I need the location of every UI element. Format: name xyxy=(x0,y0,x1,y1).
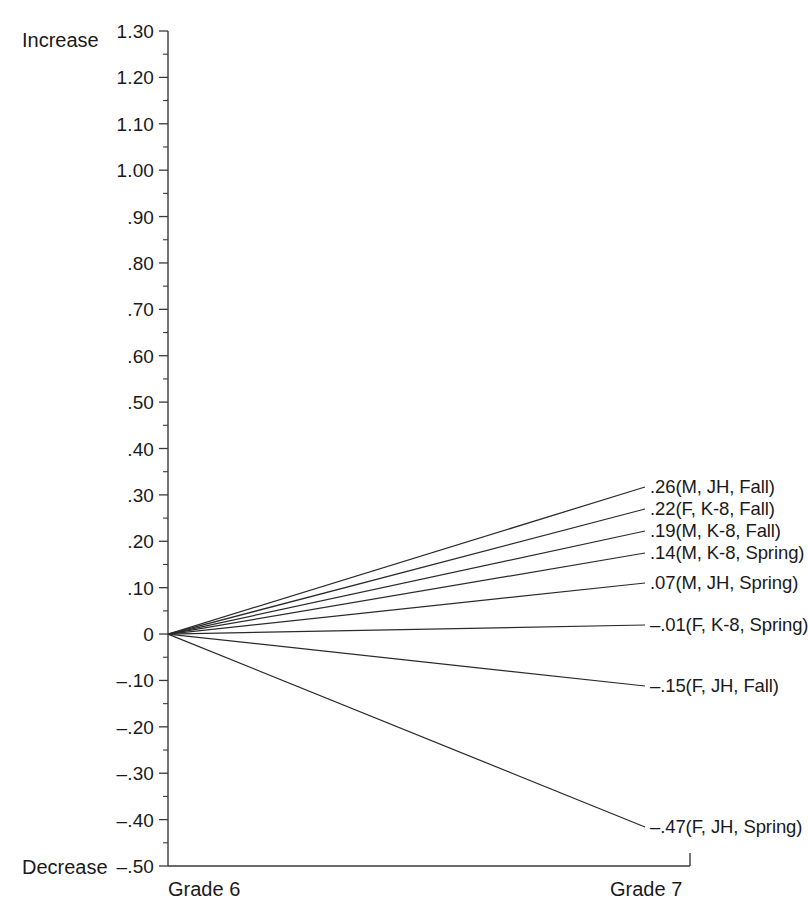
series-lines xyxy=(168,487,645,827)
series-end-label: .14(M, K-8, Spring) xyxy=(650,544,804,563)
series-line xyxy=(168,509,645,634)
y-tick-label: 1.30 xyxy=(60,22,154,41)
y-tick-label: –.30 xyxy=(60,764,154,783)
y-tick-label: 1.10 xyxy=(60,115,154,134)
y-tick-label: .50 xyxy=(60,393,154,412)
series-line xyxy=(168,531,645,634)
y-tick-label: –.50 xyxy=(60,857,154,876)
y-tick-label: .40 xyxy=(60,440,154,459)
y-tick-label: –.20 xyxy=(60,718,154,737)
series-end-label: .07(M, JH, Spring) xyxy=(650,574,798,593)
series-end-label: .19(M, K-8, Fall) xyxy=(650,522,781,541)
y-tick-label: 0 xyxy=(60,625,154,644)
y-tick-label: 1.00 xyxy=(60,161,154,180)
series-end-label: –.15(F, JH, Fall) xyxy=(650,677,779,696)
y-tick-label: .80 xyxy=(60,254,154,273)
x-tick-label-grade-7: Grade 7 xyxy=(610,879,682,899)
axes-group xyxy=(168,31,690,866)
y-tick-label: 1.20 xyxy=(60,68,154,87)
y-tick-label: .10 xyxy=(60,579,154,598)
series-line xyxy=(168,634,645,686)
series-end-label: .22(F, K-8, Fall) xyxy=(650,500,775,519)
series-end-label: .26(M, JH, Fall) xyxy=(650,478,775,497)
y-tick-label: .70 xyxy=(60,300,154,319)
y-tick-label: .60 xyxy=(60,347,154,366)
y-tick-label: –.40 xyxy=(60,811,154,830)
y-tick-label: –.10 xyxy=(60,671,154,690)
series-end-label: –.47(F, JH, Spring) xyxy=(650,818,802,837)
y-tick-label: .20 xyxy=(60,532,154,551)
y-tick-label: .30 xyxy=(60,486,154,505)
y-tick-label: .90 xyxy=(60,208,154,227)
series-end-label: –.01(F, K-8, Spring) xyxy=(650,616,808,635)
series-line xyxy=(168,553,645,634)
series-line xyxy=(168,487,645,634)
y-axis-ticks xyxy=(159,31,168,866)
series-line xyxy=(168,634,645,827)
x-tick-label-grade-6: Grade 6 xyxy=(168,879,240,899)
